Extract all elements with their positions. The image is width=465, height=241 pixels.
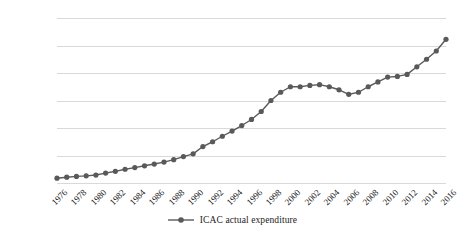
data-point-marker <box>93 172 98 177</box>
data-point-marker <box>220 134 225 139</box>
data-point-marker <box>84 173 89 178</box>
data-point-marker <box>375 79 380 84</box>
data-point-marker <box>356 90 361 95</box>
data-point-marker <box>239 123 244 128</box>
data-point-marker <box>278 90 283 95</box>
chart-legend: ICAC actual expenditure <box>0 215 465 225</box>
data-point-marker <box>171 157 176 162</box>
data-point-marker <box>336 87 341 92</box>
data-point-marker <box>249 117 254 122</box>
data-point-marker <box>113 169 118 174</box>
data-point-marker <box>103 171 108 176</box>
data-point-marker <box>288 84 293 89</box>
data-point-marker <box>268 98 273 103</box>
data-point-marker <box>443 37 448 42</box>
data-point-marker <box>210 139 215 144</box>
data-point-marker <box>405 72 410 77</box>
data-point-marker <box>259 109 264 114</box>
data-point-marker <box>424 57 429 62</box>
data-point-marker <box>385 75 390 80</box>
data-point-marker <box>414 64 419 69</box>
data-point-marker <box>434 48 439 53</box>
data-point-marker <box>327 84 332 89</box>
data-point-marker <box>229 128 234 133</box>
data-point-marker <box>64 175 69 180</box>
data-point-marker <box>200 144 205 149</box>
series-line <box>57 39 446 178</box>
data-point-marker <box>366 84 371 89</box>
gridline <box>57 183 446 184</box>
data-point-marker <box>161 160 166 165</box>
chart-figure: 02004006008001,0001,200 1976197819801982… <box>0 0 465 241</box>
series-layer <box>57 18 446 183</box>
data-point-marker <box>132 165 137 170</box>
data-point-marker <box>307 83 312 88</box>
data-point-marker <box>181 154 186 159</box>
data-point-marker <box>346 92 351 97</box>
legend-marker-icon <box>168 215 194 225</box>
data-point-marker <box>298 84 303 89</box>
data-point-marker <box>152 161 157 166</box>
data-point-marker <box>142 163 147 168</box>
plot-area <box>57 18 446 183</box>
data-point-marker <box>317 82 322 87</box>
data-point-marker <box>74 174 79 179</box>
data-point-marker <box>122 167 127 172</box>
data-point-marker <box>191 151 196 156</box>
legend-label: ICAC actual expenditure <box>200 215 297 225</box>
data-point-marker <box>395 74 400 79</box>
data-point-marker <box>54 176 59 181</box>
